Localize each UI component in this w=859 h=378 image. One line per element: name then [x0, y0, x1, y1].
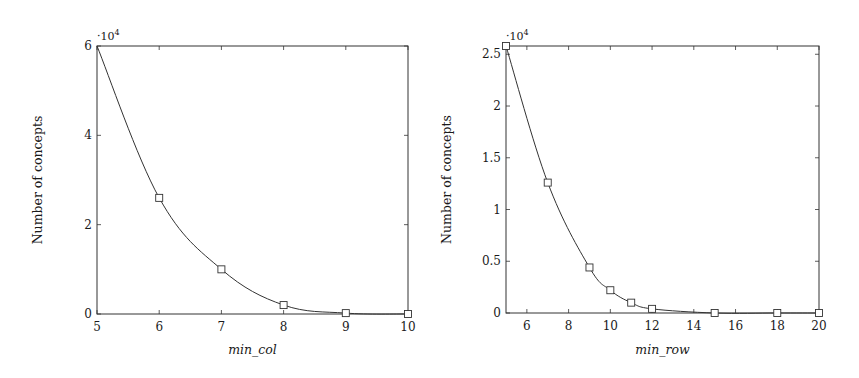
min-row-y-tick-label: 1	[493, 203, 501, 217]
min-row-data-point-square-icon	[544, 179, 551, 186]
min-row-x-tick-label: 8	[565, 319, 573, 333]
min-row-data-point-square-icon	[607, 287, 614, 294]
min-row-data-point-square-icon	[816, 310, 823, 317]
min-row-data-point-square-icon	[628, 299, 635, 306]
min-row-y-tick-label: 0.5	[482, 254, 501, 268]
min-row-x-axis-title: min_row	[635, 342, 690, 357]
min-row-y-multiplier-exponent: 4	[524, 28, 529, 37]
min-row-data-point-square-icon	[503, 43, 510, 50]
min-row-x-tick-label: 20	[811, 319, 826, 333]
min-row-y-tick-label: 0	[493, 306, 501, 320]
min-row-y-tick-label: 2	[493, 99, 501, 113]
min-row-y-tick-label: 2.5	[482, 47, 501, 61]
min-row-data-point-square-icon	[649, 305, 656, 312]
min-row-series-line	[506, 46, 819, 313]
min-row-x-tick-label: 14	[686, 319, 702, 333]
min-row-data-point-square-icon	[774, 310, 781, 317]
min-row-data-point-square-icon	[586, 264, 593, 271]
min-row-y-tick-label: 1.5	[482, 151, 501, 165]
chart-min-row: 6810121416182000.511.522.5·104min_rowNum…	[0, 0, 430, 378]
min-row-x-tick-label: 18	[770, 319, 785, 333]
min-row-x-tick-label: 10	[603, 319, 618, 333]
min-row-x-tick-label: 16	[728, 319, 743, 333]
min-row-x-tick-label: 12	[644, 319, 659, 333]
min-row-y-multiplier: ·104	[506, 28, 529, 43]
min-row-y-axis-title: Number of concepts	[439, 115, 454, 244]
chart-min-row-svg: 6810121416182000.511.522.5·104min_rowNum…	[0, 0, 859, 378]
min-row-plot-frame	[506, 46, 819, 313]
min-row-data-point-square-icon	[711, 310, 718, 317]
min-row-x-tick-label: 6	[523, 319, 531, 333]
